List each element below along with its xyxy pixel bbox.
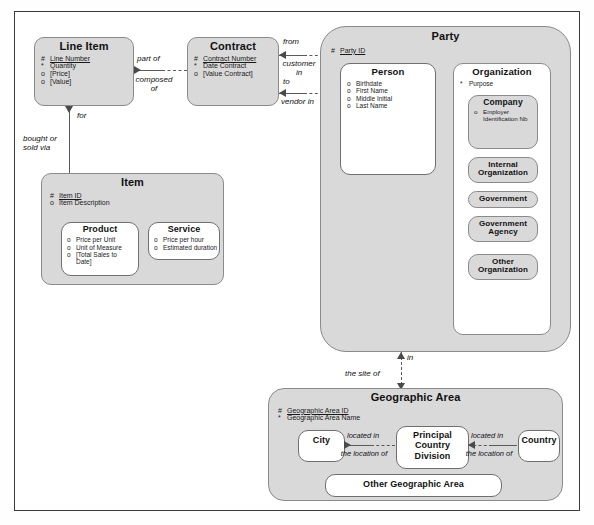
attribute-marker: #	[331, 47, 340, 55]
entity-government-agency[interactable]: Government Agency	[468, 216, 538, 242]
attribute-row: o Last Name	[347, 102, 435, 109]
entity-country[interactable]: Country	[518, 430, 560, 462]
entity-line-item[interactable]: Line Item # Line Number * Quantity o [Pr…	[34, 37, 134, 106]
entity-geographic-area[interactable]: Geographic Area # Geographic Area ID * G…	[268, 388, 563, 501]
entity-other-geographic-area[interactable]: Other Geographic Area	[325, 474, 502, 497]
entity-company[interactable]: Company o Employer Identification Nb	[468, 95, 538, 149]
attribute-row: * Geographic Area Name	[278, 414, 562, 422]
entity-contract[interactable]: Contract # Contract Number * Date Contra…	[187, 37, 279, 106]
relationship-label-located-in-city: located in	[347, 432, 379, 440]
entity-government-title: Government	[469, 195, 537, 203]
attribute-label: Estimated duration	[163, 244, 217, 251]
crowsfoot-contract-to	[279, 89, 286, 97]
attribute-label: [Total Sales to Date]	[76, 251, 134, 266]
entity-principal-country-division[interactable]: Principal Country Division	[396, 426, 469, 469]
crowsfoot-city	[344, 441, 351, 449]
attribute-label: Last Name	[356, 102, 387, 109]
relationship-line-city-pcd-dashed	[371, 445, 395, 446]
relationship-line-lineitem-contract-dashed	[162, 70, 187, 71]
attribute-label: [Value]	[50, 78, 71, 86]
diagram-frame: Line Item # Line Number * Quantity o [Pr…	[14, 11, 580, 511]
entity-principal-country-division-title: Principal Country Division	[397, 430, 468, 461]
attribute-row: # Item ID	[50, 192, 223, 200]
attribute-label: Price per hour	[163, 236, 204, 243]
entity-person-title: Person	[341, 67, 435, 77]
entity-company-title: Company	[469, 98, 537, 107]
entity-other-geographic-area-title: Other Geographic Area	[326, 480, 501, 489]
attribute-marker: #	[41, 55, 50, 63]
attribute-label: Party ID	[340, 47, 365, 55]
er-diagram-canvas: Line Item # Line Number * Quantity o [Pr…	[0, 0, 594, 525]
attribute-row: * Quantity	[41, 62, 133, 70]
crowsfoot-contract-from	[279, 51, 286, 59]
attribute-label: Item Description	[59, 199, 110, 207]
attribute-label: [Price]	[50, 70, 70, 78]
attribute-label: Geographic Area Name	[287, 414, 360, 422]
entity-city-title: City	[299, 436, 344, 445]
relationship-label-in: in	[407, 354, 413, 363]
relationship-label-bought-or-sold-via: bought or sold via	[23, 135, 67, 153]
entity-item[interactable]: Item # Item ID o Item Description Produc…	[41, 173, 224, 285]
relationship-label-the-site-of: the site of	[345, 370, 380, 379]
entity-city[interactable]: City	[298, 430, 345, 462]
attribute-marker: *	[194, 62, 203, 70]
attribute-label: First Name	[356, 87, 388, 94]
attribute-label: Purpose	[469, 80, 493, 87]
attribute-marker: o	[67, 244, 76, 251]
entity-other-organization[interactable]: Other Organization	[468, 254, 538, 280]
attribute-marker: o	[50, 199, 59, 207]
attribute-row: o Price per Unit	[67, 236, 138, 243]
entity-organization[interactable]: Organization * Purpose Company o Employe…	[453, 63, 551, 335]
attribute-label: Middle Initial	[356, 95, 392, 102]
attribute-marker: #	[194, 55, 203, 63]
relationship-label-customer-in: customer in	[281, 60, 317, 78]
relationship-line-lineitem-item	[69, 106, 70, 173]
attribute-marker: o	[67, 236, 76, 243]
relationship-label-vendor-in: vendor in	[281, 98, 314, 107]
entity-party-title: Party	[321, 31, 570, 43]
attribute-label: Employer Identification Nb	[483, 109, 535, 123]
entity-product[interactable]: Product o Price per Unit o Unit of Measu…	[61, 222, 139, 276]
entity-internal-organization-title: Internal Organization	[469, 161, 537, 178]
attribute-row: # Line Number	[41, 55, 133, 63]
attribute-row: o Item Description	[50, 199, 223, 207]
entity-government[interactable]: Government	[468, 191, 538, 208]
attribute-row: # Party ID	[331, 47, 570, 55]
attribute-marker: o	[347, 87, 356, 94]
attribute-label: Item ID	[59, 192, 82, 200]
attribute-label: [Value Contract]	[203, 70, 253, 78]
entity-product-title: Product	[62, 225, 138, 234]
entity-person[interactable]: Person o Birthdate o First Name o Middle…	[340, 63, 436, 175]
attribute-label: Contract Number	[203, 55, 256, 63]
attribute-label: Date Contract	[203, 62, 246, 70]
entity-item-title: Item	[42, 177, 223, 189]
entity-organization-title: Organization	[454, 67, 550, 77]
attribute-row: o Employer Identification Nb	[474, 109, 536, 123]
relationship-label-part-of: part of	[137, 55, 160, 64]
attribute-marker: o	[347, 80, 356, 87]
entity-internal-organization[interactable]: Internal Organization	[468, 157, 538, 183]
relationship-label-composed-of: composed of	[133, 76, 175, 94]
attribute-marker: #	[50, 192, 59, 200]
attribute-row: o Middle Initial	[347, 95, 435, 102]
attribute-row: o [Value Contract]	[194, 70, 278, 78]
entity-service[interactable]: Service o Price per hour o Estimated dur…	[148, 222, 220, 260]
attribute-marker: o	[347, 102, 356, 109]
attribute-marker: #	[278, 407, 287, 415]
attribute-marker: o	[41, 70, 50, 78]
attribute-marker: *	[278, 414, 287, 422]
attribute-label: Quantity	[50, 62, 76, 70]
entity-party[interactable]: Party # Party ID Person o Birthdate o	[320, 26, 571, 352]
relationship-label-for: for	[77, 112, 86, 121]
attribute-label: Line Number	[50, 55, 90, 63]
entity-line-item-title: Line Item	[35, 41, 133, 53]
attribute-marker: *	[41, 62, 50, 70]
attribute-marker: *	[460, 80, 469, 87]
entity-other-organization-title: Other Organization	[469, 258, 537, 275]
attribute-row: o Birthdate	[347, 80, 435, 87]
relationship-line-pcd-country-solid	[492, 445, 517, 446]
entity-country-title: Country	[519, 436, 559, 445]
attribute-marker: o	[347, 95, 356, 102]
attribute-row: o Price per hour	[154, 236, 219, 243]
attribute-row: * Purpose	[460, 80, 550, 87]
